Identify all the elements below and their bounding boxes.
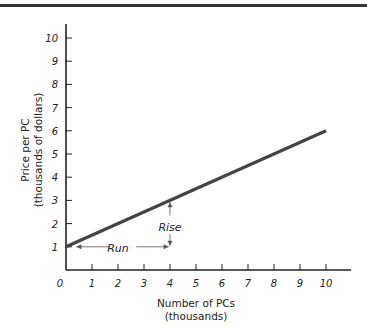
run-label: Run bbox=[107, 242, 129, 255]
run-arrowhead-right bbox=[164, 244, 169, 249]
x-tick-label: 5 bbox=[193, 278, 199, 289]
x-tick-label: 6 bbox=[219, 278, 225, 289]
x-axis-title: Number of PCs bbox=[157, 297, 235, 309]
x-tick-label: 3 bbox=[141, 278, 147, 289]
data-line bbox=[66, 131, 326, 247]
x-tick-label: 2 bbox=[115, 278, 121, 289]
series bbox=[66, 131, 326, 247]
x-tick-label: 0 bbox=[57, 278, 63, 289]
x-tick-label: 7 bbox=[245, 278, 252, 289]
y-tick-label: 10 bbox=[45, 33, 58, 44]
y-tick-label: 4 bbox=[52, 172, 58, 183]
y-tick-label: 3 bbox=[52, 195, 58, 206]
x-tick-label: 8 bbox=[271, 278, 277, 289]
y-tick-label: 8 bbox=[52, 79, 58, 90]
y-tick-label: 1 bbox=[52, 242, 58, 253]
x-tick-label: 9 bbox=[297, 278, 303, 289]
x-tick-label: 4 bbox=[167, 278, 173, 289]
x-tick-label: 1 bbox=[89, 278, 95, 289]
y-axis-subtitle: (thousands of dollars) bbox=[32, 93, 44, 208]
annotations: Run Rise bbox=[76, 202, 181, 255]
y-tick-label: 9 bbox=[52, 56, 58, 67]
run-arrowhead-left bbox=[76, 244, 81, 249]
y-tick-label: 5 bbox=[52, 149, 58, 160]
ticks: 01234567891012345678910 bbox=[45, 33, 332, 289]
rise-arrowhead-up bbox=[168, 202, 173, 207]
rise-arrowhead-down bbox=[168, 241, 173, 246]
x-tick-label: 10 bbox=[320, 278, 333, 289]
y-tick-label: 7 bbox=[52, 103, 59, 114]
line-chart: 01234567891012345678910 Run Rise Number … bbox=[0, 0, 367, 332]
axes bbox=[66, 24, 351, 270]
x-axis-subtitle: (thousands) bbox=[165, 310, 228, 322]
y-tick-label: 6 bbox=[52, 126, 58, 137]
y-tick-label: 2 bbox=[52, 219, 58, 230]
rise-label: Rise bbox=[158, 221, 181, 234]
y-axis-title: Price per PC bbox=[19, 118, 31, 181]
